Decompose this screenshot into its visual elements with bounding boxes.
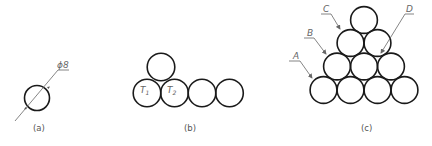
diameter-label: ϕ8: [57, 60, 69, 70]
bottom-circle-4: [216, 79, 244, 107]
row3-circle-3: [378, 53, 405, 80]
bottom-circle-3: [188, 79, 216, 107]
single-circle: [25, 86, 50, 111]
circle-packing-diagram: ϕ8 (a) T1 T2 (b) A B C D (c: [0, 0, 432, 146]
panel-a: ϕ8 (a): [15, 60, 69, 133]
row1-circle-1: [351, 7, 378, 34]
callout-c-leader: [321, 14, 340, 29]
row4-circle-3: [364, 77, 391, 104]
label-t2: T2: [167, 85, 177, 96]
row4-circle-4: [391, 77, 418, 104]
callout-b-leader: [304, 38, 326, 54]
callout-a-leader: [289, 61, 312, 78]
callout-b-label: B: [307, 28, 313, 38]
diameter-dimension-line: [15, 70, 58, 121]
caption-a: (a): [33, 123, 45, 133]
callout-c-label: C: [323, 4, 330, 14]
callout-d-label: D: [406, 4, 413, 14]
row3-circle-1: [324, 53, 351, 80]
row3-circle-2: [351, 53, 378, 80]
top-circle: [147, 53, 175, 81]
row2-circle-1: [337, 30, 364, 57]
caption-b: (b): [184, 123, 196, 133]
callout-a-label: A: [292, 51, 299, 61]
row4-circle-2: [337, 77, 364, 104]
panel-c: A B C D (c): [289, 4, 418, 133]
panel-b: T1 T2 (b): [133, 53, 243, 133]
label-t1: T1: [140, 85, 149, 96]
arrow-head-icon: [47, 87, 50, 90]
caption-c: (c): [361, 123, 372, 133]
row4-circle-1: [310, 77, 337, 104]
